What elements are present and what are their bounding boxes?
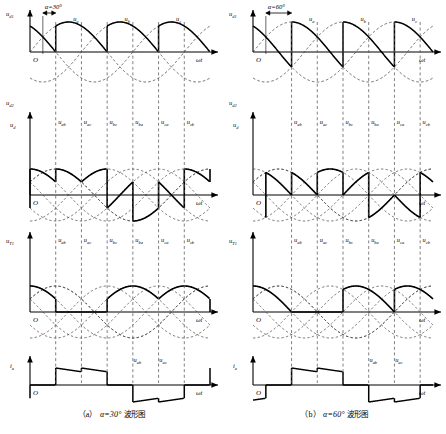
- uT1-y-axis-label: uT1: [229, 237, 237, 246]
- ia-y-axis-label: ia: [233, 362, 238, 371]
- ud2-y-axis-label: ud2: [6, 99, 14, 108]
- uT1-omega-label: ωt: [196, 316, 203, 323]
- alpha-annotation: α=60°: [268, 3, 286, 10]
- uT1-omega-label: ωt: [419, 316, 426, 323]
- ud2-line-label-2: ubc: [345, 118, 352, 127]
- ia-marker-label-0: uab: [134, 356, 142, 365]
- waveform-panel-alpha-60: ud1Oωtα=60°uaubucud2udOωtuabuacubcubauca…: [223, 0, 446, 434]
- uT1-line-label-1: uac: [320, 236, 327, 245]
- ud2-line-label-3: uba: [371, 118, 379, 127]
- ud1-omega-label: ωt: [196, 56, 203, 63]
- ud-y-axis-label: ud: [233, 121, 239, 130]
- ud2-origin-label: O: [33, 199, 38, 207]
- ia-marker-label-0: uab: [369, 356, 377, 365]
- ud1-omega-label: ωt: [419, 56, 426, 63]
- ud2-line-label-5: ucb: [423, 118, 431, 127]
- panel-b-svg: ud1Oωtα=60°uaubucud2udOωtuabuacubcubauca…: [223, 0, 446, 408]
- ud1-y-axis-label: ud1: [229, 10, 237, 19]
- uT1-origin-label: O: [256, 316, 261, 324]
- ud1-origin-label: O: [256, 56, 261, 64]
- caption-a-text: 波形图: [124, 410, 146, 419]
- ud2-line-label-5: ucb: [187, 118, 195, 127]
- uT1-line-label-5: ucb: [423, 236, 431, 245]
- uT1-line-label-4: uca: [161, 236, 169, 245]
- ud2-y-axis-label: ud2: [229, 99, 237, 108]
- ud1-phase-label-2: uc: [412, 15, 417, 24]
- ud1-origin-label: O: [33, 56, 38, 64]
- ud2-line-label-1: uac: [320, 118, 327, 127]
- uT1-origin-label: O: [33, 316, 38, 324]
- uT1-line-label-0: uab: [58, 236, 66, 245]
- ud2-line-label-2: ubc: [110, 118, 117, 127]
- ud1-phase-label-1: ub: [360, 15, 366, 24]
- uT1-line-label-2: ubc: [110, 236, 117, 245]
- waveform-panel-alpha-30: ud1Oωtα=30°uaubucud2udOωtuabuacubcubauca…: [0, 0, 223, 434]
- caption-b-index: （b）: [300, 410, 321, 419]
- ud2-line-label-0: uab: [58, 118, 66, 127]
- ud2-line-label-4: uca: [397, 118, 405, 127]
- ia-omega-label: ωt: [419, 389, 426, 396]
- uT1-line-label-2: ubc: [345, 236, 352, 245]
- uT1-line-label-3: uba: [135, 236, 143, 245]
- caption-a-index: （a）: [78, 410, 98, 419]
- ia-omega-label: ωt: [196, 389, 203, 396]
- ud2-omega-label: ωt: [196, 199, 203, 206]
- caption-a-alpha: α=30°: [100, 410, 122, 419]
- ia-marker-label-1: uac: [159, 356, 166, 365]
- ud2-line-label-3: uba: [135, 118, 143, 127]
- ia-marker-label-1: uac: [395, 356, 402, 365]
- ud-y-axis-label: ud: [10, 121, 16, 130]
- panel-a-svg: ud1Oωtα=30°uaubucud2udOωtuabuacubcubauca…: [0, 0, 223, 408]
- alpha-annotation: α=30°: [45, 3, 63, 10]
- ud2-line-label-0: uab: [294, 118, 302, 127]
- ud2-omega-label: ωt: [419, 199, 426, 206]
- ud1-phase-label-0: ua: [309, 15, 315, 24]
- figure-root: ud1Oωtα=30°uaubucud2udOωtuabuacubcubauca…: [0, 0, 446, 434]
- caption-b-alpha: α=60°: [323, 410, 345, 419]
- ud2-line-label-4: uca: [161, 118, 169, 127]
- uT1-line-label-5: ucb: [187, 236, 195, 245]
- ud2-line-label-1: uac: [84, 118, 91, 127]
- caption-panel-a: （a） α=30° 波形图: [0, 408, 223, 419]
- caption-panel-b: （b） α=60° 波形图: [223, 408, 446, 419]
- uT1-line-label-0: uab: [294, 236, 302, 245]
- ia-origin-label: O: [256, 389, 261, 397]
- caption-b-text: 波形图: [347, 410, 369, 419]
- ia-y-axis-label: ia: [10, 362, 15, 371]
- uT1-line-label-4: uca: [397, 236, 405, 245]
- uT1-line-label-1: uac: [84, 236, 91, 245]
- uT1-line-label-3: uba: [371, 236, 379, 245]
- ia-origin-label: O: [33, 389, 38, 397]
- ud1-y-axis-label: ud1: [6, 10, 14, 19]
- uT1-y-axis-label: uT1: [6, 237, 14, 246]
- ud2-origin-label: O: [256, 199, 261, 207]
